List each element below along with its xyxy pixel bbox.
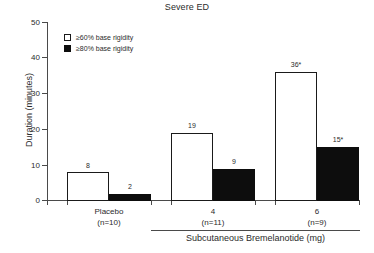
x-category-n: (n=9) — [277, 217, 357, 228]
y-tick-mark — [42, 57, 47, 58]
x-category-name: 4 — [211, 207, 215, 216]
y-tick-label: 50 — [18, 18, 40, 27]
y-tick-label: 0 — [18, 196, 40, 205]
chart-figure: Severe ED Duration (minutes) 50 40 30 20… — [0, 0, 374, 253]
bar-placebo-60 — [67, 172, 109, 201]
filled-square-icon — [64, 45, 71, 52]
x-tick-mark — [47, 200, 48, 205]
chart-title: Severe ED — [0, 2, 374, 12]
x-axis-label: Subcutaneous Bremelanotide (mg) — [151, 233, 360, 243]
bar-value-6mg-60: 36* — [275, 61, 317, 68]
x-category-placebo: Placebo (n=10) — [69, 206, 149, 228]
y-tick-label: 40 — [18, 53, 40, 62]
legend-item-80: ≥80% base rigidity — [64, 43, 133, 54]
x-category-name: Placebo — [95, 207, 124, 216]
x-tick-mark — [151, 200, 152, 205]
bar-6mg-80 — [317, 147, 359, 201]
x-category-n: (n=10) — [69, 217, 149, 228]
x-category-6mg: 6 (n=9) — [277, 206, 357, 228]
y-tick-mark — [42, 22, 47, 23]
legend-item-60: ≥60% base rigidity — [64, 32, 133, 43]
bar-4mg-80 — [213, 169, 255, 201]
y-axis-line — [47, 22, 48, 201]
y-tick-label: 20 — [18, 125, 40, 134]
bar-value-6mg-80: 15* — [317, 136, 359, 143]
bar-value-4mg-80: 9 — [213, 158, 255, 165]
x-tick-mark — [359, 200, 360, 205]
y-tick-label: 10 — [18, 161, 40, 170]
y-tick-mark — [42, 129, 47, 130]
x-tick-mark — [255, 200, 256, 205]
x-category-name: 6 — [315, 207, 319, 216]
open-square-icon — [64, 34, 71, 41]
x-category-n: (n=11) — [173, 217, 253, 228]
y-tick-label: 30 — [18, 89, 40, 98]
bar-4mg-60 — [171, 133, 213, 201]
y-tick-mark — [42, 93, 47, 94]
legend-label: ≥60% base rigidity — [76, 34, 133, 41]
bar-placebo-80 — [109, 194, 151, 201]
chart-legend: ≥60% base rigidity ≥80% base rigidity — [64, 32, 133, 54]
bar-value-placebo-80: 2 — [109, 183, 151, 190]
bar-value-4mg-60: 19 — [171, 122, 213, 129]
x-category-4mg: 4 (n=11) — [173, 206, 253, 228]
bar-value-placebo-60: 8 — [67, 162, 109, 169]
group-bracket-line — [151, 230, 360, 231]
bar-6mg-60 — [275, 72, 317, 201]
y-tick-mark — [42, 165, 47, 166]
legend-label: ≥80% base rigidity — [76, 45, 133, 52]
